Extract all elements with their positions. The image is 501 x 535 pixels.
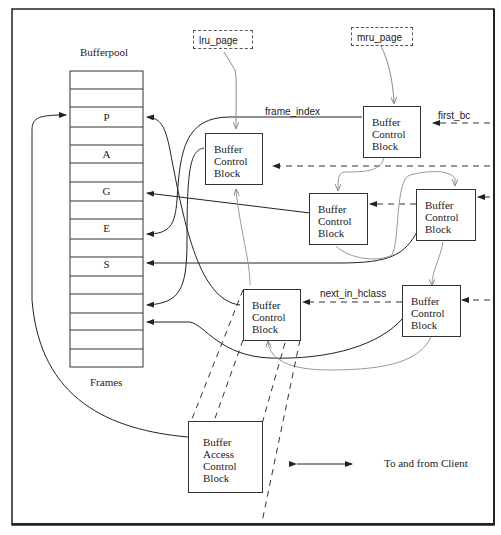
- bcb-line: Block: [411, 319, 460, 331]
- buffer-control-block-1: Buffer Control Block: [363, 106, 421, 158]
- frames-caption: Frames: [90, 376, 122, 388]
- bacb-line: Control: [203, 460, 262, 472]
- buffer-control-block-4: Buffer Control Block: [416, 189, 476, 241]
- bcb-line: Control: [425, 211, 475, 223]
- bacb-line: Block: [203, 472, 262, 484]
- lru-page-pointer: lru_page: [193, 30, 253, 49]
- mru-page-label: mru_page: [357, 32, 402, 43]
- bcb-line: Buffer: [252, 299, 300, 311]
- frame-index-label: frame_index: [265, 106, 320, 118]
- bcb-line: Block: [252, 323, 300, 335]
- frame-letter-s: S: [70, 258, 143, 270]
- frame-letter-a: A: [70, 148, 143, 160]
- bcb-line: Buffer: [425, 199, 475, 211]
- bufferpool-title: Bufferpool: [80, 46, 128, 58]
- bcb-line: Buffer: [411, 295, 460, 307]
- bcb-line: Control: [214, 155, 262, 167]
- bcb-line: Control: [252, 311, 300, 323]
- bcb-line: Control: [411, 307, 460, 319]
- bcb-line: Buffer: [318, 203, 367, 215]
- frame-letter-g: G: [70, 185, 143, 197]
- bcb-line: Block: [318, 227, 367, 239]
- bcb-line: Control: [318, 215, 367, 227]
- legend-text: To and from Client: [384, 457, 468, 469]
- next-in-hclass-label: next_in_hclass: [320, 288, 386, 300]
- mru-page-pointer: mru_page: [351, 27, 413, 46]
- buffer-control-block-6: Buffer Control Block: [402, 285, 461, 337]
- buffer-control-block-2: Buffer Control Block: [205, 133, 263, 185]
- bcb-line: Buffer: [372, 116, 420, 128]
- bcb-line: Block: [214, 167, 262, 179]
- bufferpool-diagram: Bufferpool Frames P A G E S lru_page mru…: [0, 0, 501, 535]
- bacb-line: Access: [203, 448, 262, 460]
- bacb-line: Buffer: [203, 436, 262, 448]
- lru-page-label: lru_page: [199, 35, 238, 46]
- frame-letter-e: E: [70, 222, 143, 234]
- buffer-control-block-3: Buffer Control Block: [309, 193, 368, 245]
- bcb-line: Control: [372, 128, 420, 140]
- frame-letter-p: P: [70, 111, 143, 123]
- first-bc-label: first_bc: [438, 110, 470, 122]
- buffer-control-block-5: Buffer Control Block: [243, 289, 301, 341]
- bcb-line: Block: [372, 140, 420, 152]
- buffer-access-control-block: Buffer Access Control Block: [188, 421, 263, 493]
- bcb-line: Block: [425, 223, 475, 235]
- bcb-line: Buffer: [214, 143, 262, 155]
